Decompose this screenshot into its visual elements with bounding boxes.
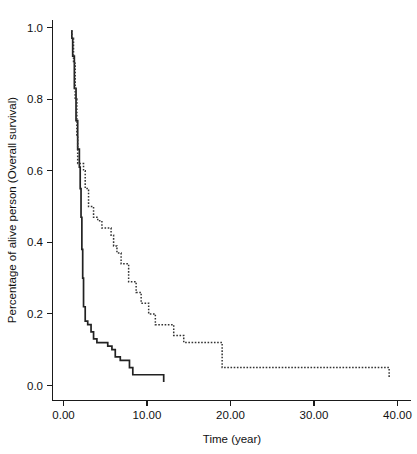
solid-survival-curve: [71, 31, 164, 382]
x-tick-label-30: 30.00: [300, 409, 329, 421]
x-tick-label-10: 10.00: [133, 409, 162, 421]
dotted-survival-curve: [71, 31, 389, 378]
y-tick-label-0.4: 0.4: [27, 236, 44, 248]
y-tick-label-0.0: 0.0: [27, 380, 43, 392]
x-tick-label-20: 20.00: [216, 409, 245, 421]
y-axis-title: Percentage of alive person (Overall surv…: [6, 97, 18, 323]
x-axis-title: Time (year): [203, 433, 262, 445]
y-axis-group: 1.0 0.8 0.6 0.4 0.2 0.0 Percentage of al…: [6, 20, 53, 401]
y-tick-label-0.8: 0.8: [27, 93, 43, 105]
curves-group: [71, 31, 389, 382]
y-tick-label-0.6: 0.6: [27, 165, 43, 177]
x-tick-label-0: 0.00: [52, 409, 74, 421]
survival-chart-figure: 1.0 0.8 0.6 0.4 0.2 0.0 Percentage of al…: [0, 0, 417, 454]
y-tick-label-0.2: 0.2: [27, 308, 43, 320]
y-tick-label-1.0: 1.0: [27, 22, 43, 34]
x-axis-group: 0.00 10.00 20.00 30.00 40.00 Time (year): [52, 401, 412, 446]
survival-plot-svg: 1.0 0.8 0.6 0.4 0.2 0.0 Percentage of al…: [0, 0, 417, 454]
x-tick-label-40: 40.00: [383, 409, 412, 421]
